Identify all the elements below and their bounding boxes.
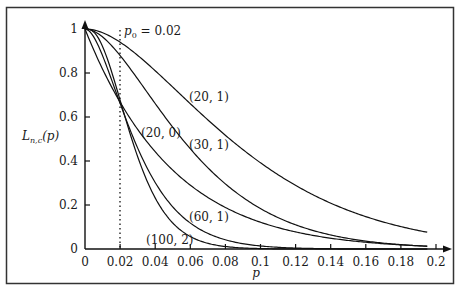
y-tick-label: 0.6 bbox=[59, 110, 78, 124]
x-tick-label: 0.2 bbox=[426, 255, 445, 269]
x-tick-label: 0.16 bbox=[352, 255, 379, 269]
x-tick-label: 0.06 bbox=[177, 255, 204, 269]
x-tick-label: 0.02 bbox=[107, 255, 134, 269]
curve-label-30-1: (30, 1) bbox=[189, 138, 229, 152]
p0-annotation: p0 = 0.02 bbox=[124, 24, 181, 40]
curve-30-1 bbox=[85, 29, 427, 246]
x-tick-label: 0.18 bbox=[388, 255, 415, 269]
curve-20-0 bbox=[85, 29, 427, 246]
curve-100-2 bbox=[85, 29, 427, 249]
y-tick-label: 0.8 bbox=[59, 66, 78, 80]
curve-label-20-1: (20, 1) bbox=[189, 90, 229, 104]
y-tick-label: 0 bbox=[70, 242, 78, 256]
x-tick-label: 0.12 bbox=[282, 255, 309, 269]
y-axis-arrow-icon bbox=[82, 20, 89, 29]
x-tick-label: 0 bbox=[81, 255, 89, 269]
curve-60-1 bbox=[85, 29, 427, 249]
x-axis-title: p bbox=[252, 266, 260, 280]
curve-20-1 bbox=[85, 29, 427, 232]
curves bbox=[85, 29, 427, 249]
curve-label-100-2: (100, 2) bbox=[146, 233, 194, 247]
y-tick-label: 0.4 bbox=[59, 154, 78, 168]
y-tick-label: 0.2 bbox=[59, 198, 78, 212]
x-tick-label: 0.14 bbox=[317, 255, 344, 269]
x-tick-label: 0.08 bbox=[212, 255, 239, 269]
curve-label-60-1: (60, 1) bbox=[189, 210, 229, 224]
x-ticks: 00.020.040.060.080.10.120.140.160.180.2 bbox=[81, 244, 445, 269]
x-tick-label: 0.04 bbox=[142, 255, 169, 269]
curve-label-20-0: (20, 0) bbox=[141, 126, 181, 140]
oc-curve-chart: 00.020.040.060.080.10.120.140.160.180.2 … bbox=[0, 0, 460, 288]
x-axis-arrow-icon bbox=[443, 246, 452, 253]
y-axis-title: Ln,c(p) bbox=[21, 129, 60, 145]
y-tick-label: 1 bbox=[70, 22, 78, 36]
